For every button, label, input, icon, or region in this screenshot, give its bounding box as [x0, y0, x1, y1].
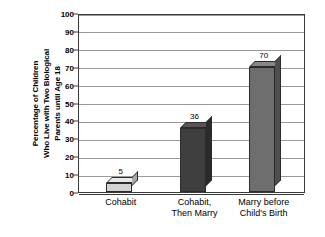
x-axis-label-3: Marry beforeChild's Birth [238, 197, 289, 219]
y-tick-label-0: 0 [34, 189, 74, 198]
bar-chart: Percentage of Children Who Live with Two… [0, 0, 325, 237]
bar-front-face-1 [106, 183, 132, 192]
plot-area [78, 14, 305, 193]
bar-side-face-3 [275, 55, 281, 186]
gridline-100 [79, 15, 304, 16]
gridline-0 [79, 194, 304, 195]
x-axis-label-3-line-1: Marry before [238, 197, 289, 208]
bar-2[interactable] [180, 122, 206, 192]
x-axis-label-2-line-2: Then Marry [171, 208, 217, 219]
y-tick-label-50: 50 [34, 99, 74, 108]
bar-3[interactable] [249, 61, 275, 192]
bar-front-face-2 [180, 128, 206, 192]
bar-front-face-3 [249, 67, 275, 192]
gridline-80 [79, 50, 304, 51]
y-tick-label-40: 40 [34, 117, 74, 126]
x-axis-label-2-line-1: Cohabit, [171, 197, 217, 208]
y-tick-label-10: 10 [34, 171, 74, 180]
y-tick-label-20: 20 [34, 153, 74, 162]
bar-value-label-1: 5 [117, 167, 123, 176]
gridline-90 [79, 32, 304, 33]
x-axis-label-1-line-1: Cohabit [105, 197, 136, 208]
y-tick-label-70: 70 [34, 63, 74, 72]
x-axis-label-2: Cohabit,Then Marry [171, 197, 217, 219]
y-tick-label-80: 80 [34, 45, 74, 54]
bar-side-face-2 [206, 116, 212, 186]
bar-1[interactable] [106, 177, 132, 192]
y-tick-label-60: 60 [34, 81, 74, 90]
x-axis-label-3-line-2: Child's Birth [238, 208, 289, 219]
bar-value-label-3: 70 [258, 51, 269, 60]
y-tick-label-30: 30 [34, 135, 74, 144]
y-tick-label-100: 100 [34, 10, 74, 19]
y-tick-label-90: 90 [34, 27, 74, 36]
x-axis-label-1: Cohabit [105, 197, 136, 208]
bar-value-label-2: 36 [189, 112, 200, 121]
